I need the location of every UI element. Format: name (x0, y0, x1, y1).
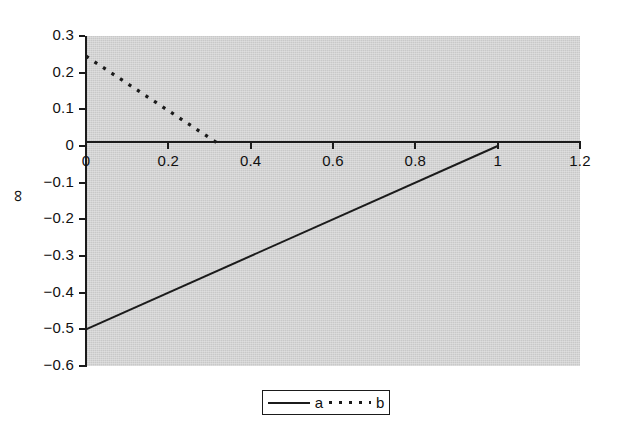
x-axis-tick-label: 0.4 (221, 152, 281, 169)
y-axis-tick (79, 108, 85, 110)
legend-label-a: a (315, 395, 323, 410)
x-axis-tick (332, 143, 334, 149)
y-axis-tick (79, 35, 85, 37)
plot-area (86, 36, 580, 366)
x-axis-tick (167, 143, 169, 149)
legend-label-b: b (376, 395, 384, 410)
x-axis-tick-label: 0.6 (303, 152, 363, 169)
y-axis-tick (79, 72, 85, 74)
y-axis-line (85, 36, 87, 367)
y-axis-tick (79, 255, 85, 257)
y-axis-tick (79, 182, 85, 184)
chart-legend: a b (262, 390, 390, 415)
x-axis-tick-label: 0.2 (138, 152, 198, 169)
y-axis-tick-label: 0 (16, 136, 74, 153)
y-axis-tick-label: 0.2 (16, 63, 74, 80)
x-axis-tick (250, 143, 252, 149)
legend-entry-a: a (268, 395, 323, 410)
y-axis-tick-label: −0.6 (16, 356, 74, 373)
y-axis-tick-label: −0.4 (16, 283, 74, 300)
legend-solid-line-icon (268, 402, 310, 404)
x-axis-tick (85, 143, 87, 149)
y-axis-tick (79, 328, 85, 330)
x-axis-tick (497, 143, 499, 149)
x-axis-tick (579, 143, 581, 149)
x-axis-tick-label: 0.8 (385, 152, 445, 169)
chart-figure: ∞ 0.30.20.10−0.1−0.2−0.3−0.4−0.5−0.600.2… (0, 0, 619, 436)
x-axis-tick (414, 143, 416, 149)
plot-background-texture (86, 36, 580, 366)
y-axis-tick (79, 292, 85, 294)
y-axis-tick-label: 0.3 (16, 26, 74, 43)
legend-dotted-line-icon (329, 401, 371, 404)
y-axis-tick (79, 218, 85, 220)
x-axis-tick-label: 1 (468, 152, 528, 169)
x-axis-tick-label: 0 (56, 152, 116, 169)
y-axis-tick-label: −0.1 (16, 173, 74, 190)
y-axis-tick-label: −0.5 (16, 319, 74, 336)
legend-entry-b: b (329, 395, 384, 410)
y-axis-tick-label: −0.3 (16, 246, 74, 263)
y-axis-tick-label: −0.2 (16, 209, 74, 226)
x-axis-tick-label: 1.2 (550, 152, 610, 169)
y-axis-tick (79, 365, 85, 367)
y-axis-tick-label: 0.1 (16, 99, 74, 116)
